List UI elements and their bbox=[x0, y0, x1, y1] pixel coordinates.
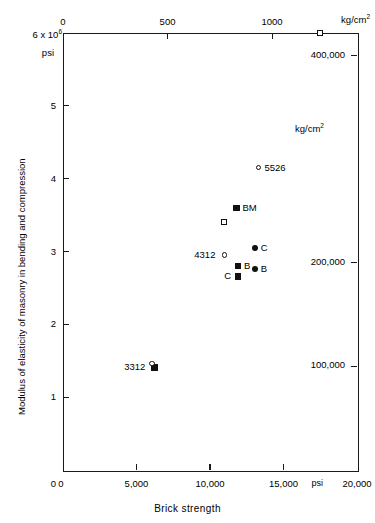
x-tick-bottom-3 bbox=[283, 464, 284, 470]
y-axis-origin-label: 0 bbox=[31, 479, 56, 489]
data-point-label: BM bbox=[242, 203, 256, 213]
y-tick-left-label-4: 1 bbox=[31, 392, 56, 402]
x-tick-top-1 bbox=[167, 33, 168, 39]
data-point-label: 4312 bbox=[194, 250, 215, 260]
y-axis-top-unit: 6 x 106 bbox=[32, 28, 62, 40]
marker-open-square bbox=[221, 219, 227, 225]
y-tick-left-3 bbox=[63, 324, 69, 325]
data-point-label: 5526 bbox=[265, 163, 286, 173]
y-tick-left-4 bbox=[63, 397, 69, 398]
x-tick-label-2: 10,000 bbox=[170, 479, 250, 489]
marker-filled-square bbox=[235, 273, 242, 280]
y-tick-right-label-0: 400,000 bbox=[281, 50, 345, 60]
y-tick-left-label-3: 2 bbox=[31, 319, 56, 329]
x-tick-bottom-1 bbox=[136, 464, 137, 470]
x-axis-psi-unit: psi bbox=[303, 479, 331, 488]
x-tick-top-label-0: 0 bbox=[23, 17, 103, 27]
data-point-label: C bbox=[224, 271, 231, 281]
data-point-label: C bbox=[261, 243, 268, 253]
marker-filled-circle bbox=[252, 266, 258, 272]
marker-open-circle bbox=[149, 361, 155, 367]
y-tick-left-label-1: 4 bbox=[31, 174, 56, 184]
x-tick-top-2 bbox=[272, 33, 273, 39]
y-tick-right-1 bbox=[351, 262, 357, 263]
chart-figure: 6 x 106 psi Modulus of elasticity of mas… bbox=[0, 0, 375, 523]
data-point-label: B bbox=[261, 264, 267, 274]
marker-filled-square bbox=[235, 263, 242, 270]
x-axis-title: Brick strength bbox=[0, 503, 375, 514]
marker-filled-square bbox=[233, 205, 240, 212]
y-tick-left-2 bbox=[63, 251, 69, 252]
x-tick-top-label-1: 500 bbox=[128, 17, 208, 27]
y-tick-left-label-2: 3 bbox=[31, 247, 56, 257]
y-axis-title: Modulus of elasticity of masonry in bend… bbox=[16, 158, 27, 415]
data-point-label: B bbox=[244, 261, 250, 271]
y-tick-left-label-0: 5 bbox=[31, 101, 56, 111]
y-tick-left-1 bbox=[63, 178, 69, 179]
y-tick-right-label-2: 100,000 bbox=[281, 360, 345, 370]
marker-open-square bbox=[317, 30, 323, 36]
y-tick-left-0 bbox=[63, 105, 69, 106]
y-tick-right-0 bbox=[351, 55, 357, 56]
y-tick-right-label-1: 200,000 bbox=[281, 257, 345, 267]
y-axis-psi-unit: psi bbox=[42, 47, 54, 58]
y-axis-right-unit: kg/cm2 bbox=[295, 123, 324, 134]
x-tick-label-1: 5,000 bbox=[97, 479, 177, 489]
x-axis-top-unit: kg/cm2 bbox=[341, 14, 370, 25]
data-point-label: 3312 bbox=[124, 362, 145, 372]
x-tick-bottom-2 bbox=[209, 464, 210, 470]
marker-filled-circle bbox=[252, 245, 258, 251]
x-tick-top-label-2: 1000 bbox=[232, 17, 312, 27]
y-tick-right-2 bbox=[351, 366, 357, 367]
